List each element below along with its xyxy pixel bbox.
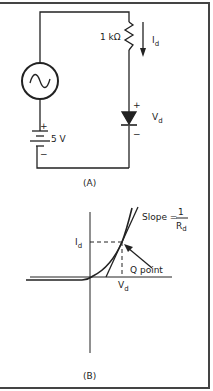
battery-plus-sign: + xyxy=(40,121,48,131)
diode-plus-sign: + xyxy=(133,100,141,110)
caption-b: (B) xyxy=(83,371,96,381)
slope-label: Slope = xyxy=(142,212,177,222)
battery-icon xyxy=(30,128,50,150)
diode-voltage-label: Vd xyxy=(152,112,163,125)
q-point-label: Q point xyxy=(130,265,163,275)
id-axis-label: Id xyxy=(75,237,82,250)
battery-minus-sign: − xyxy=(40,149,48,159)
slope-numerator: 1 xyxy=(178,207,184,217)
caption-a: (A) xyxy=(83,178,96,188)
current-label: Id xyxy=(152,35,159,48)
wire-bottom xyxy=(37,150,129,168)
resistor-label: 1 kΩ xyxy=(100,32,121,42)
iv-graph-panel-b xyxy=(26,207,172,353)
sine-wave-icon xyxy=(30,74,50,87)
diode-minus-sign: − xyxy=(133,129,141,139)
circuit-panel-a xyxy=(22,12,146,168)
diode-icon xyxy=(122,112,136,124)
frame xyxy=(0,3,210,389)
current-arrow-head xyxy=(140,48,146,57)
slope-denominator: Rd xyxy=(176,221,187,233)
battery-voltage-label: 5 V xyxy=(51,134,67,144)
diode-circuit-figure: 1 kΩ Id + − Vd + 5 V − (A) Slope = 1 Rd … xyxy=(0,0,213,391)
vd-axis-label: Vd xyxy=(118,280,129,293)
resistor-symbol xyxy=(125,22,133,50)
